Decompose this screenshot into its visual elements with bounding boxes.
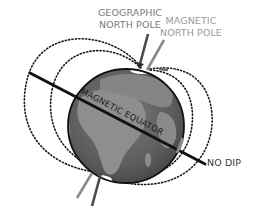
magnetic-field-diagram: MAGNETIC EQUATOR: [0, 0, 266, 222]
geographic-north-pole-label: GEOGRAPHIC NORTH POLE: [92, 7, 168, 30]
geographic-axis-south: [92, 173, 101, 206]
magnetic-axis-south: [77, 173, 92, 198]
globe: [60, 66, 184, 185]
geographic-axis-north: [140, 34, 148, 64]
magnetic-label-line2: NORTH POLE: [158, 27, 224, 39]
magnetic-north-pole-label: MAGNETIC NORTH POLE: [158, 15, 224, 38]
no-dip-label: NO DIP: [207, 157, 241, 169]
magnetic-label-line1: MAGNETIC: [158, 15, 224, 27]
geographic-label-line1: GEOGRAPHIC: [92, 7, 168, 19]
geographic-label-line2: NORTH POLE: [92, 19, 168, 31]
magnetic-pole-dash: [159, 69, 168, 70]
magnetic-axis-north: [147, 40, 164, 70]
